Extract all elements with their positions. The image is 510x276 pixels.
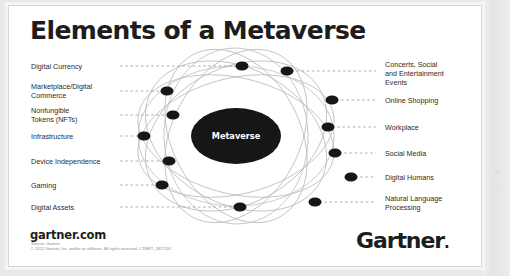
gartner-logo-dot: . bbox=[444, 234, 449, 252]
node-digital-currency bbox=[236, 61, 249, 70]
label-nlp: Natural Language Processing bbox=[385, 194, 442, 212]
node-nlp bbox=[309, 197, 322, 206]
infographic-canvas: Elements of a Metaverse bbox=[0, 0, 510, 276]
node-social-media bbox=[329, 148, 342, 157]
node-device-independence bbox=[163, 156, 176, 165]
node-digital-humans bbox=[345, 172, 358, 181]
label-workplace: Workplace bbox=[385, 123, 419, 132]
node-digital-assets bbox=[234, 202, 247, 211]
label-marketplace: Marketplace/Digital Commerce bbox=[31, 82, 92, 100]
node-nft bbox=[167, 110, 180, 119]
gartner-logo: Gartner. bbox=[356, 228, 449, 253]
scan-margin bbox=[482, 0, 510, 276]
scan-speck bbox=[496, 188, 500, 191]
label-concerts: Concerts, Social and Entertainment Event… bbox=[385, 60, 444, 88]
copyright-fineprint: Source: Gartner © 2022 Gartner, Inc. and… bbox=[31, 241, 171, 252]
gartner-com-url[interactable]: gartner.com bbox=[30, 228, 106, 242]
label-social-media: Social Media bbox=[385, 149, 426, 158]
label-digital-humans: Digital Humans bbox=[385, 173, 434, 182]
metaverse-orbit-diagram: Metaverse bbox=[8, 5, 480, 265]
label-gaming: Gaming bbox=[31, 181, 56, 190]
node-gaming bbox=[156, 180, 169, 189]
center-node-label: Metaverse bbox=[212, 131, 261, 141]
label-infrastructure: Infrastructure bbox=[31, 132, 73, 141]
gartner-logo-text: Gartner bbox=[356, 228, 444, 253]
node-marketplace bbox=[161, 86, 174, 95]
label-device-independence: Device Independence bbox=[31, 157, 101, 166]
node-online-shopping bbox=[326, 95, 339, 104]
node-concerts bbox=[281, 66, 294, 75]
node-infrastructure bbox=[138, 131, 151, 140]
label-digital-assets: Digital Assets bbox=[31, 203, 74, 212]
scan-speck bbox=[495, 170, 500, 174]
label-online-shopping: Online Shopping bbox=[385, 96, 438, 105]
label-nft: Nonfungible Tokens (NFTs) bbox=[31, 106, 77, 124]
label-digital-currency: Digital Currency bbox=[31, 62, 82, 71]
node-workplace bbox=[322, 122, 335, 131]
